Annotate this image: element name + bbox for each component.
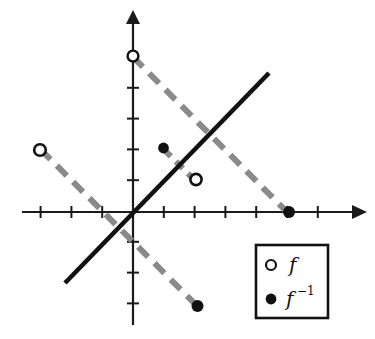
point-open-2-1 (190, 174, 201, 185)
point-filled-1-2 (158, 143, 169, 154)
point-filled-2--3 (192, 300, 204, 312)
point-filled-5-0 (283, 206, 295, 218)
y-axis-arrow-icon (126, 10, 140, 24)
x-axis-arrow-icon (352, 205, 367, 219)
legend[interactable]: f f −1 (256, 245, 328, 318)
point-open-0-5 (128, 51, 139, 62)
legend-label-f-inverse-exponent: −1 (297, 284, 315, 298)
point-open--3-2 (34, 144, 46, 156)
legend-open-circle-icon (266, 260, 276, 270)
coordinate-plot: f f −1 (0, 0, 375, 339)
legend-filled-circle-icon (266, 294, 277, 305)
function-inverse-graph-figure: f f −1 (0, 0, 375, 339)
identity-line-y-equals-x (65, 73, 269, 283)
